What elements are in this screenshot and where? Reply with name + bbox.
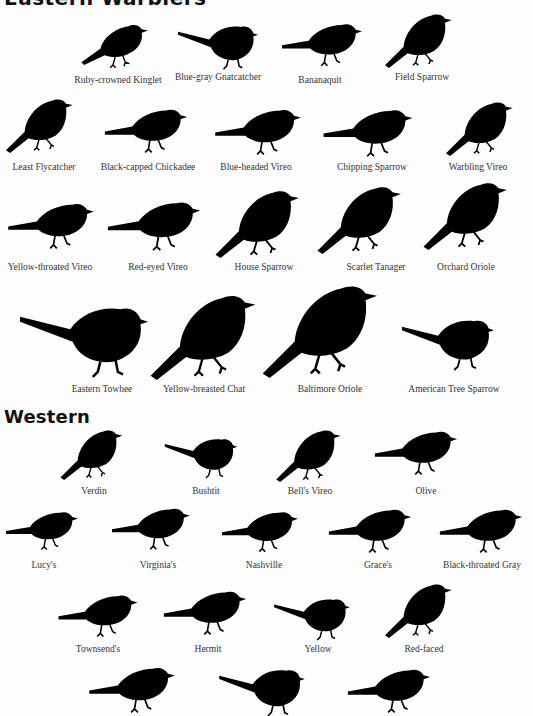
silhouette-red-eyed-vireo [104,196,204,252]
silhouette-scarlet-tanager [306,184,414,254]
silhouette-verdin [56,428,128,480]
silhouette-nashville [222,506,298,554]
label-yellow-throated-vireo: Yellow-throated Vireo [8,262,93,272]
silhouette-warbling-vireo [438,100,522,156]
silhouette-yellow [268,594,356,640]
silhouette-graces [326,504,414,554]
label-bells-vireo: Bell's Vireo [288,486,333,496]
label-graces: Grace's [364,560,392,570]
silhouette-hermit [162,586,248,636]
label-house-sparrow: House Sparrow [235,262,294,272]
silhouette-chipping-sparrow [322,104,414,158]
label-american-tree-sparrow: American Tree Sparrow [408,384,499,394]
section-heading-western: Western [4,406,90,427]
label-black-capped-chickadee: Black-capped Chickadee [101,162,196,172]
label-warbling-vireo: Warbling Vireo [449,162,507,172]
silhouette-yellow-throated-vireo [6,198,96,250]
silhouette-virginias [112,502,190,552]
silhouette-orchard-oriole [408,180,524,250]
silhouette-red-faced [376,582,462,638]
label-yellow-breasted-chat: Yellow-breasted Chat [163,384,245,394]
label-blue-headed-vireo: Blue-headed Vireo [220,162,291,172]
label-chipping-sparrow: Chipping Sparrow [337,162,407,172]
label-red-eyed-vireo: Red-eyed Vireo [128,262,188,272]
silhouette-blue-gray-gnatcatcher [178,20,258,70]
label-verdin: Verdin [81,486,106,496]
silhouette-lucys [6,506,78,552]
silhouette-western-row4-3 [344,664,434,714]
silhouette-western-row4-2 [214,664,310,716]
silhouette-blue-headed-vireo [212,104,304,156]
silhouette-townsends [56,590,140,638]
label-black-throated-gray: Black-throated Gray [443,560,521,570]
label-nashville: Nashville [246,560,282,570]
silhouette-house-sparrow [210,188,306,258]
label-virginias: Virginia's [140,560,176,570]
label-eastern-towhee: Eastern Towhee [72,384,133,394]
label-orchard-oriole: Orchard Oriole [437,262,495,272]
silhouette-yellow-breasted-chat [150,292,258,380]
label-yellow: Yellow [304,644,331,654]
silhouette-olive [370,426,462,476]
silhouette-bells-vireo [270,428,348,482]
silhouette-bananaquit [282,14,362,72]
label-ruby-crowned-kinglet: Ruby-crowned Kinglet [74,75,161,85]
label-baltimore-oriole: Baltimore Oriole [298,384,363,394]
label-blue-gray-gnatcatcher: Blue-gray Gnatcatcher [175,72,261,82]
label-least-flycatcher: Least Flycatcher [12,162,75,172]
silhouette-american-tree-sparrow [400,314,496,370]
label-bushtit: Bushtit [192,486,219,496]
silhouette-eastern-towhee [20,298,148,378]
silhouette-field-sparrow [376,12,462,68]
silhouette-baltimore-oriole [260,282,382,378]
label-red-faced: Red-faced [404,644,443,654]
silhouette-black-capped-chickadee [104,104,188,154]
silhouette-black-throated-gray [436,504,526,554]
silhouette-ruby-crowned-kinglet [80,22,150,68]
top-heading-partial: Eastern Warblers [4,0,206,10]
label-townsends: Townsend's [76,644,120,654]
label-lucys: Lucy's [32,560,57,570]
silhouette-least-flycatcher [6,96,74,154]
label-bananaquit: Bananaquit [298,75,341,85]
label-olive: Olive [415,486,436,496]
label-hermit: Hermit [195,644,222,654]
label-field-sparrow: Field Sparrow [395,72,449,82]
silhouette-bushtit [162,434,240,478]
silhouette-western-row4-1 [86,662,178,714]
label-scarlet-tanager: Scarlet Tanager [346,262,405,272]
